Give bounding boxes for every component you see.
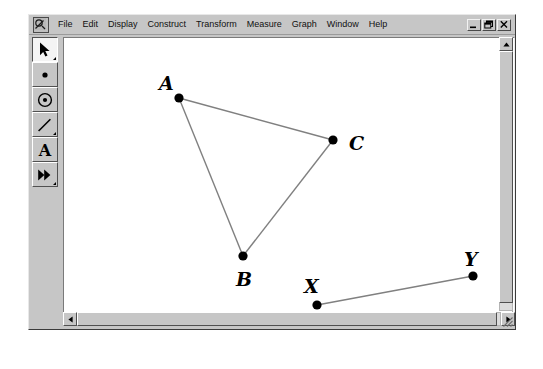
segment-XY[interactable] <box>317 276 473 305</box>
segment-AC[interactable] <box>179 98 333 140</box>
point-icon <box>36 66 54 84</box>
vertical-scroll-thumb[interactable] <box>499 51 513 303</box>
point-label-A[interactable]: A <box>157 72 174 94</box>
tool-submenu-corner <box>53 132 56 135</box>
selection-arrow-tool[interactable] <box>32 37 58 62</box>
close-button[interactable] <box>497 19 511 31</box>
text-tool[interactable]: A <box>32 137 58 162</box>
scroll-up-button[interactable] <box>499 37 513 51</box>
straightedge-tool[interactable] <box>32 112 58 137</box>
point-Y[interactable] <box>468 271 477 280</box>
points-group <box>174 93 477 309</box>
segment-AB[interactable] <box>179 98 243 256</box>
segment-icon <box>36 116 54 134</box>
menu-item-help[interactable]: Help <box>364 18 393 32</box>
svg-text:A: A <box>38 141 52 159</box>
point-B[interactable] <box>238 251 247 260</box>
double-arrow-icon <box>36 166 54 184</box>
sketch-drawing: ABCXY <box>64 38 514 324</box>
horizontal-scroll-track[interactable] <box>77 312 501 326</box>
resize-grip[interactable] <box>501 315 514 328</box>
menu-item-file[interactable]: File <box>53 18 78 32</box>
circle-icon <box>36 91 54 109</box>
tool-submenu-corner <box>53 57 56 60</box>
arrow-icon <box>36 41 54 59</box>
point-label-C[interactable]: C <box>349 132 364 154</box>
compass-circle-tool[interactable] <box>32 87 58 112</box>
restore-button[interactable] <box>482 19 496 31</box>
point-label-Y[interactable]: Y <box>464 248 480 270</box>
menu-item-window[interactable]: Window <box>322 18 364 32</box>
menu-bar: File Edit Display Construct Transform Me… <box>29 15 515 35</box>
minimize-button[interactable] <box>467 19 481 31</box>
sketchpad-app-icon[interactable] <box>33 17 49 33</box>
resize-grip-icon <box>501 315 514 328</box>
window-controls <box>467 19 511 31</box>
letter-a-icon: A <box>36 141 54 159</box>
horizontal-scroll-thumb[interactable] <box>77 312 497 326</box>
sketch-canvas[interactable]: ABCXY <box>63 37 515 325</box>
scroll-left-button[interactable] <box>63 312 77 326</box>
tool-submenu-corner <box>53 182 56 185</box>
application-window: File Edit Display Construct Transform Me… <box>28 14 516 330</box>
menu-item-display[interactable]: Display <box>103 18 143 32</box>
menu-item-construct[interactable]: Construct <box>143 18 192 32</box>
menu-item-edit[interactable]: Edit <box>78 18 104 32</box>
vertical-scrollbar[interactable] <box>499 37 513 325</box>
vertical-scroll-track[interactable] <box>499 51 513 311</box>
segment-BC[interactable] <box>243 140 333 256</box>
tool-palette: A <box>31 37 61 325</box>
point-A[interactable] <box>174 93 183 102</box>
menu-item-measure[interactable]: Measure <box>242 18 287 32</box>
horizontal-scrollbar[interactable] <box>63 312 515 326</box>
triangle-left-icon <box>68 316 73 323</box>
point-label-B[interactable]: B <box>235 268 252 290</box>
point-tool[interactable] <box>32 62 58 87</box>
menu-item-transform[interactable]: Transform <box>191 18 242 32</box>
point-X[interactable] <box>312 300 321 309</box>
custom-transform-tool[interactable] <box>32 162 58 187</box>
menu-item-graph[interactable]: Graph <box>287 18 322 32</box>
triangle-up-icon <box>503 42 510 47</box>
point-label-X[interactable]: X <box>303 275 320 297</box>
segments-group <box>179 98 473 305</box>
point-C[interactable] <box>328 135 337 144</box>
